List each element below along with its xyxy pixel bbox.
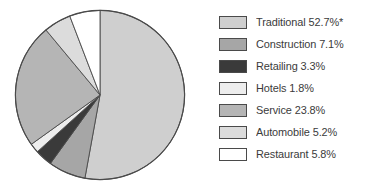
legend-swatch-retailing — [219, 60, 247, 73]
pie-chart-figure: Traditional 52.7%* Construction 7.1% Ret… — [0, 0, 372, 191]
pie-chart-plot-area — [0, 0, 200, 191]
legend-item-retailing: Retailing 3.3% — [219, 57, 369, 76]
legend-label-retailing: Retailing 3.3% — [256, 60, 325, 73]
chart-legend: Traditional 52.7%* Construction 7.1% Ret… — [219, 13, 369, 164]
legend-label-automobile: Automobile 5.2% — [256, 126, 337, 139]
legend-swatch-service — [219, 104, 247, 117]
pie-chart-svg — [0, 0, 200, 191]
legend-label-restaurant: Restaurant 5.8% — [256, 148, 336, 161]
legend-swatch-automobile — [219, 126, 247, 139]
legend-label-construction: Construction 7.1% — [256, 38, 344, 51]
legend-label-hotels: Hotels 1.8% — [256, 82, 314, 95]
legend-swatch-restaurant — [219, 148, 247, 161]
legend-swatch-construction — [219, 38, 247, 51]
legend-label-traditional: Traditional 52.7%* — [256, 16, 343, 29]
pie-slice-group — [15, 10, 184, 179]
legend-item-traditional: Traditional 52.7%* — [219, 13, 369, 32]
legend-label-service: Service 23.8% — [256, 104, 325, 117]
legend-item-automobile: Automobile 5.2% — [219, 123, 369, 142]
legend-item-service: Service 23.8% — [219, 101, 369, 120]
legend-item-restaurant: Restaurant 5.8% — [219, 145, 369, 164]
legend-swatch-hotels — [219, 82, 247, 95]
legend-swatch-traditional — [219, 16, 247, 29]
legend-item-hotels: Hotels 1.8% — [219, 79, 369, 98]
legend-item-construction: Construction 7.1% — [219, 35, 369, 54]
